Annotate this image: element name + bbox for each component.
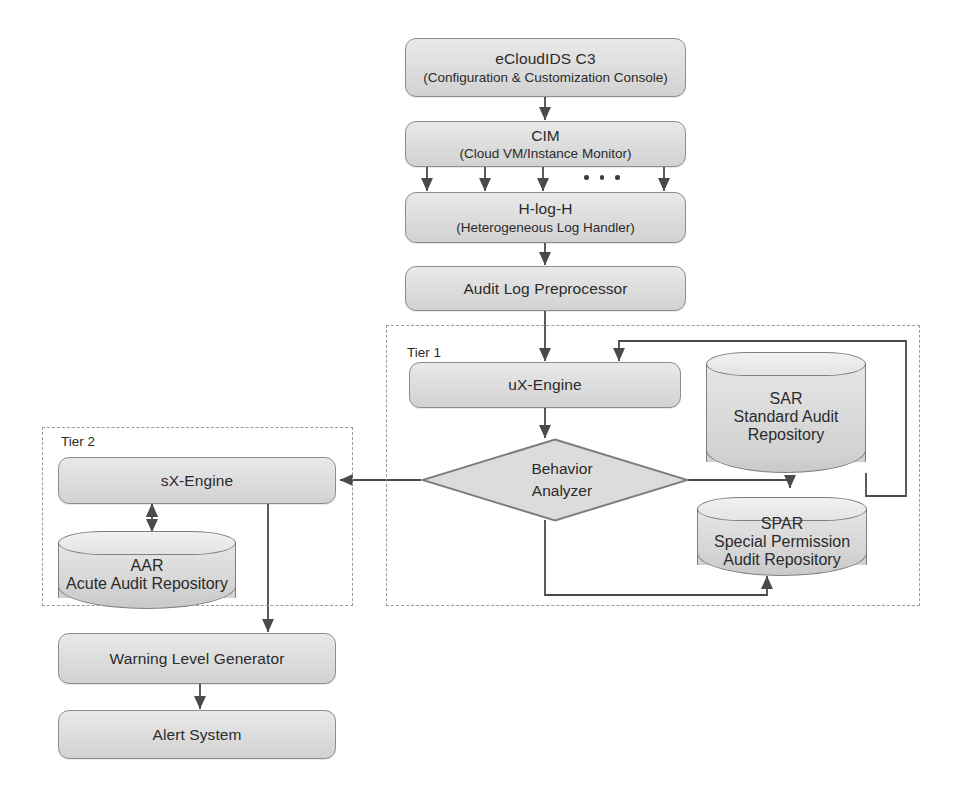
ecloudids-console-subtitle: (Configuration & Customization Console) <box>423 69 668 86</box>
node-sar-repository[interactable]: SAR Standard Audit Repository <box>706 352 866 473</box>
node-cim[interactable]: CIM (Cloud VM/Instance Monitor) <box>405 121 686 167</box>
tier-2-label: Tier 2 <box>58 434 98 449</box>
spar-title: SPAR <box>761 515 803 533</box>
sar-label-group: SAR Standard Audit Repository <box>706 376 866 457</box>
alert-system-title: Alert System <box>152 725 241 744</box>
spar-subtitle-line1: Special Permission <box>714 533 850 551</box>
ux-engine-title: uX-Engine <box>508 375 581 394</box>
tier-1-label: Tier 1 <box>404 345 444 360</box>
node-ecloudids-console[interactable]: eCloudIDS C3 (Configuration & Customizat… <box>405 38 686 97</box>
architecture-diagram: Tier 1 Tier 2 eCloudIDS C3 (Configuratio… <box>0 0 960 799</box>
sar-cylinder-top <box>706 352 866 376</box>
spar-label-group: SPAR Special Permission Audit Repository <box>697 517 867 566</box>
behavior-analyzer-line1: Behavior <box>531 458 592 480</box>
behavior-analyzer-line2: Analyzer <box>532 480 592 502</box>
node-sx-engine[interactable]: sX-Engine <box>58 457 336 504</box>
node-hlogh[interactable]: H-log-H (Heterogeneous Log Handler) <box>405 192 686 243</box>
node-behavior-analyzer[interactable]: Behavior Analyzer <box>421 438 689 522</box>
aar-label-group: AAR Acute Audit Repository <box>58 553 236 597</box>
cim-title: CIM <box>531 126 560 145</box>
aar-subtitle: Acute Audit Repository <box>66 575 228 593</box>
node-warning-level-generator[interactable]: Warning Level Generator <box>58 633 336 684</box>
spar-subtitle-line2: Audit Repository <box>723 551 840 569</box>
ellipsis-more-instances-icon <box>584 175 620 180</box>
behavior-analyzer-label-group: Behavior Analyzer <box>421 438 689 522</box>
cim-subtitle: (Cloud VM/Instance Monitor) <box>460 145 632 162</box>
ecloudids-console-title: eCloudIDS C3 <box>495 49 595 68</box>
aar-title: AAR <box>131 557 164 575</box>
sar-title: SAR <box>770 390 803 408</box>
node-spar-repository[interactable]: SPAR Special Permission Audit Repository <box>697 497 867 576</box>
hlogh-title: H-log-H <box>518 199 572 218</box>
audit-log-preprocessor-title: Audit Log Preprocessor <box>463 279 627 298</box>
warning-level-generator-title: Warning Level Generator <box>110 649 285 668</box>
node-alert-system[interactable]: Alert System <box>58 710 336 759</box>
node-aar-repository[interactable]: AAR Acute Audit Repository <box>58 531 236 609</box>
hlogh-subtitle: (Heterogeneous Log Handler) <box>456 219 635 236</box>
node-audit-log-preprocessor[interactable]: Audit Log Preprocessor <box>405 266 686 311</box>
sx-engine-title: sX-Engine <box>161 471 233 490</box>
aar-cylinder-top <box>58 531 236 555</box>
sar-subtitle: Standard Audit Repository <box>706 408 866 444</box>
node-ux-engine[interactable]: uX-Engine <box>409 362 681 408</box>
